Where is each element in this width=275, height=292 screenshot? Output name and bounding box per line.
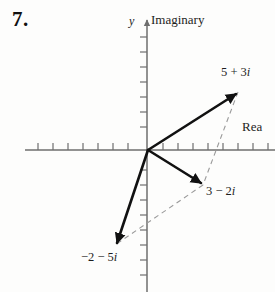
imaginary-axis-label: Imaginary (151, 13, 204, 26)
label-3-minus-2i: 3 − 2i (206, 185, 235, 198)
complex-plane-figure: 7. y Imaginary Rea 5 + 3i 3 − 2i −2 − 5i (0, 0, 275, 292)
imaginary-unit: i (114, 250, 117, 264)
imaginary-unit: i (247, 65, 250, 79)
label-5-plus-3i: 5 + 3i (221, 66, 250, 79)
y-axis-variable-label: y (129, 15, 134, 27)
dashed-z1-to-z2 (203, 92, 238, 185)
imaginary-unit: i (232, 184, 235, 198)
problem-number: 7. (12, 9, 29, 30)
complex-plane-plot (0, 0, 275, 292)
vectors (117, 94, 236, 243)
vector-minus2-minus-5i (117, 150, 148, 243)
dashed-z2-to-z3 (115, 185, 203, 245)
label-minus2-minus-5i: −2 − 5i (81, 251, 117, 264)
real-axis-label: Rea (242, 120, 262, 133)
vector-3-minus-2i (148, 150, 201, 183)
vector-5-plus-3i (148, 94, 236, 150)
